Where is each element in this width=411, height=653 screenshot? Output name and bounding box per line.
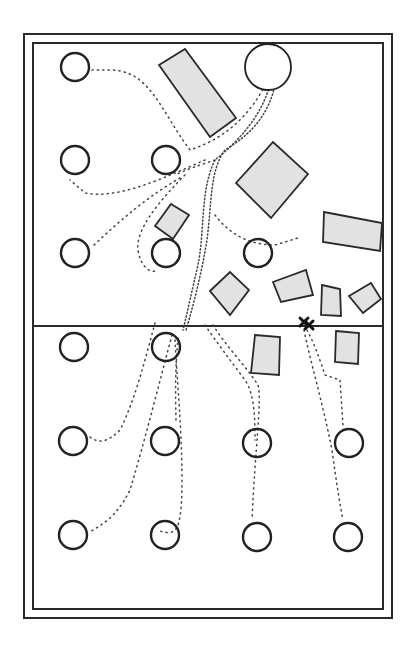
obstacle-right-wide-rect xyxy=(323,212,382,251)
obstacle-narrow-rect xyxy=(321,285,341,316)
obstacle-small-diamond-right xyxy=(349,283,381,313)
diagram-canvas xyxy=(0,0,411,653)
path-lower-r6c1 xyxy=(90,335,172,532)
target-circle-r5c4 xyxy=(335,429,363,457)
dotted-paths-group xyxy=(70,70,343,532)
target-circle-r6c3 xyxy=(243,523,271,551)
obstacle-long-bar-top xyxy=(159,49,236,137)
target-circle-r6c2 xyxy=(151,521,179,549)
target-circle-r2c1 xyxy=(61,146,89,174)
goal-circle xyxy=(245,44,291,90)
path-planning-diagram xyxy=(0,0,411,653)
target-circle-r6c4 xyxy=(334,523,362,551)
target-circle-r5c3 xyxy=(243,429,271,457)
target-circle-r3c2 xyxy=(152,239,180,267)
x-cross-icon xyxy=(300,318,313,329)
target-circle-r3c1 xyxy=(61,239,89,267)
obstacle-mid-rect xyxy=(273,270,313,302)
target-circle-r4c1 xyxy=(60,333,88,361)
path-lower-r5c3 xyxy=(205,325,255,440)
obstacle-big-diamond xyxy=(236,142,308,218)
path-lower-r5c1 xyxy=(90,323,155,441)
target-circle-r1c1 xyxy=(61,53,89,81)
target-circle-r2c2 xyxy=(152,146,180,174)
path-branch-r2c1 xyxy=(70,160,205,194)
target-circle-r5c2 xyxy=(151,427,179,455)
target-circle-r5c1 xyxy=(59,427,87,455)
target-circle-r6c1 xyxy=(59,521,87,549)
path-branch-r3c3 xyxy=(215,215,298,245)
obstacle-small-tilted-left xyxy=(155,204,189,239)
target-circle-r3c3 xyxy=(244,239,272,267)
obstacle-lower-rect-left xyxy=(251,335,280,375)
obstacle-mid-diamond xyxy=(210,272,249,315)
obstacle-lower-rect-right xyxy=(335,331,359,364)
